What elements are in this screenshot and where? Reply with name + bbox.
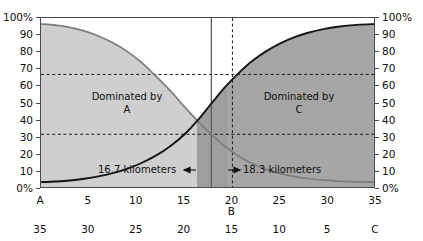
y-tick-label-left: 10	[20, 166, 33, 177]
y-tick-left	[36, 34, 40, 35]
y-tick-right	[375, 34, 379, 35]
y-tick-right	[375, 171, 379, 172]
y-tick-label-right: 100%	[382, 12, 412, 23]
chart-container: Dominated by A Dominated by C 16.7 kilom…	[0, 0, 423, 241]
y-tick-left	[36, 188, 40, 189]
y-tick-right	[375, 120, 379, 121]
x-tick-label-row-c: 30	[81, 224, 94, 235]
y-tick-left	[36, 120, 40, 121]
x-tick-label-row-a: 5	[85, 195, 92, 206]
region-c-line2: C	[296, 104, 303, 115]
y-tick-right	[375, 85, 379, 86]
y-tick-label-right: 60	[382, 80, 395, 91]
x-tick-label-row-a: 25	[273, 195, 286, 206]
y-tick-label-right: 30	[382, 132, 395, 143]
y-tick-right	[375, 68, 379, 69]
region-label-a: Dominated by A	[92, 91, 163, 116]
x-tick-label-row-c: 35	[33, 224, 46, 235]
b-marker-label: B	[225, 206, 238, 217]
y-tick-label-right: 80	[382, 46, 395, 57]
x-tick-label-row-c: 15	[225, 224, 238, 235]
y-tick-left	[36, 17, 40, 18]
y-tick-left	[36, 137, 40, 138]
region-label-c: Dominated by C	[264, 91, 335, 116]
y-tick-label-right: 70	[382, 63, 395, 74]
y-tick-left	[36, 103, 40, 104]
region-a-line2: A	[124, 104, 131, 115]
y-tick-left	[36, 85, 40, 86]
y-tick-right	[375, 137, 379, 138]
x-tick-label-row-c: C	[371, 224, 378, 235]
plot-area: Dominated by A Dominated by C 16.7 kilom…	[40, 17, 375, 188]
y-tick-left	[36, 171, 40, 172]
x-tick-label-row-a: 35	[368, 195, 381, 206]
distance-label-left: 16.7 kilometers	[98, 165, 176, 175]
x-tick-label-row-a: A	[36, 195, 43, 206]
y-tick-right	[375, 103, 379, 104]
y-tick-label-left: 60	[20, 80, 33, 91]
x-tick-label-row-c: 10	[273, 224, 286, 235]
y-tick-label-left: 90	[20, 29, 33, 40]
y-tick-label-left: 40	[20, 115, 33, 126]
x-tick-label-row-a: 15	[177, 195, 190, 206]
y-tick-label-left: 100%	[3, 12, 33, 23]
y-tick-right	[375, 188, 379, 189]
x-tick-label-row-c: 20	[177, 224, 190, 235]
y-tick-right	[375, 51, 379, 52]
y-tick-label-right: 10	[382, 166, 395, 177]
y-tick-label-left: 0%	[16, 183, 33, 194]
y-tick-left	[36, 154, 40, 155]
region-c-line1: Dominated by	[264, 91, 335, 102]
x-tick-label-row-c: 5	[324, 224, 331, 235]
y-tick-right	[375, 154, 379, 155]
y-tick-label-right: 0%	[382, 183, 399, 194]
y-tick-left	[36, 68, 40, 69]
x-tick-label-row-a: 30	[320, 195, 333, 206]
x-tick-label-row-c: 25	[129, 224, 142, 235]
y-tick-label-right: 50	[382, 98, 395, 109]
y-tick-label-left: 80	[20, 46, 33, 57]
y-tick-label-right: 40	[382, 115, 395, 126]
y-tick-label-right: 20	[382, 149, 395, 160]
region-a-line1: Dominated by	[92, 91, 163, 102]
x-tick-label-row-a: 20B	[225, 195, 238, 217]
y-tick-label-left: 30	[20, 132, 33, 143]
y-tick-label-right: 90	[382, 29, 395, 40]
distance-label-right: 18.3 kilometers	[243, 165, 321, 175]
y-tick-left	[36, 51, 40, 52]
y-tick-label-left: 20	[20, 149, 33, 160]
y-tick-label-left: 50	[20, 98, 33, 109]
y-tick-right	[375, 17, 379, 18]
x-tick-label-row-a: 10	[129, 195, 142, 206]
y-tick-label-left: 70	[20, 63, 33, 74]
